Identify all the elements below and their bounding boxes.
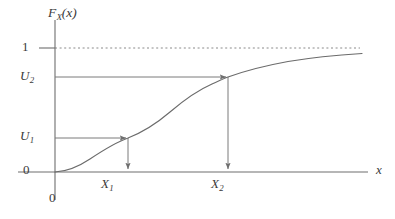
y-axis-title-argument: (x) <box>62 5 77 20</box>
x-tick-label-x2-main: X <box>211 176 219 191</box>
x-tick-label-x1-subscript: 1 <box>109 183 113 193</box>
cdf-figure: FX(x) 1 U2 U1 0 0 X1 X2 x <box>0 0 395 219</box>
y-tick-label-u2-subscript: 2 <box>30 75 34 85</box>
y-axis-title-subscript: X <box>57 12 63 22</box>
y-tick-label-u1-main: U <box>20 128 29 143</box>
y-tick-label-zero: 0 <box>23 163 30 176</box>
x-axis-title: x <box>376 163 382 176</box>
cdf-curve <box>55 54 362 173</box>
x-tick-label-x1-main: X <box>101 176 109 191</box>
y-tick-label-u1: U1 <box>20 129 34 142</box>
x-tick-label-x2: X2 <box>211 177 223 190</box>
origin-label: 0 <box>49 191 56 204</box>
y-tick-label-one: 1 <box>22 40 29 53</box>
y-tick-label-u2-main: U <box>20 68 29 83</box>
y-tick-label-u1-subscript: 1 <box>30 135 34 145</box>
y-tick-label-u2: U2 <box>20 69 34 82</box>
x-tick-label-x1: X1 <box>101 177 113 190</box>
y-axis-title-main: F <box>48 5 56 20</box>
figure-canvas <box>0 0 395 219</box>
y-axis-title: FX(x) <box>48 6 77 20</box>
x-tick-label-x2-subscript: 2 <box>219 183 223 193</box>
